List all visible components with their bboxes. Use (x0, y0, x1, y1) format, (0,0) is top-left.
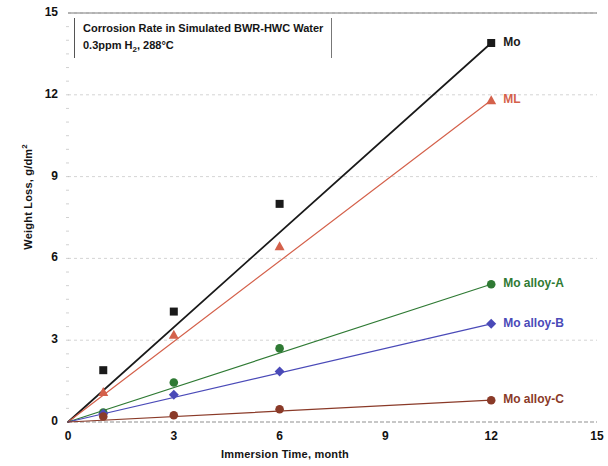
chart-container: Weight Loss, g/dm2 Immersion Time, month… (0, 0, 608, 466)
data-point-marker (275, 405, 284, 414)
data-point-marker (487, 396, 496, 405)
x-axis-title: Immersion Time, month (68, 448, 502, 460)
annotation-line-2-a: 0.3ppm H (83, 39, 133, 51)
series-label-mo-alloy-b: Mo alloy-B (503, 316, 564, 330)
series-mo (68, 39, 495, 422)
series-label-mo: Mo (503, 35, 520, 49)
data-point-marker (486, 319, 496, 329)
y-axis-tick-label: 0 (20, 414, 58, 428)
data-point-marker (170, 411, 179, 420)
data-point-marker (99, 366, 107, 374)
data-point-marker (170, 378, 179, 387)
y-axis-tick-label: 6 (20, 250, 58, 264)
chart-annotation: Corrosion Rate in Simulated BWR-HWC Wate… (74, 18, 332, 58)
y-axis-tick-label: 3 (20, 332, 58, 346)
data-point-marker (276, 200, 284, 208)
data-point-marker (275, 344, 284, 353)
series-label-mo-alloy-a: Mo alloy-A (503, 276, 564, 290)
x-axis-tick-label: 15 (577, 429, 608, 443)
x-axis-tick-label: 9 (365, 429, 405, 443)
data-point-marker (487, 280, 496, 289)
series-mo-alloy-c (68, 396, 496, 422)
data-point-marker (99, 412, 108, 421)
data-point-marker (486, 95, 496, 104)
y-axis-tick-label: 9 (20, 169, 58, 183)
y-axis-title-text: Weight Loss, g/dm (22, 149, 34, 250)
x-axis-tick-label: 12 (471, 429, 511, 443)
series-mo-alloy-a (68, 280, 496, 422)
x-axis-tick-label: 3 (154, 429, 194, 443)
data-point-marker (487, 39, 495, 47)
annotation-line-1: Corrosion Rate in Simulated BWR-HWC Wate… (83, 20, 323, 37)
x-axis-tick-label: 6 (260, 429, 300, 443)
y-axis-tick-label: 12 (20, 87, 58, 101)
series-label-mo-alloy-c: Mo alloy-C (503, 392, 564, 406)
y-axis-tick-label: 15 (20, 5, 58, 19)
data-point-marker (170, 308, 178, 316)
data-point-marker (275, 241, 285, 250)
series-trendline (68, 284, 491, 422)
annotation-line-2-b: , 288°C (137, 39, 174, 51)
series-trendline (68, 43, 491, 422)
x-axis-tick-label: 0 (48, 429, 88, 443)
annotation-line-2: 0.3ppm H2, 288°C (83, 37, 323, 56)
y-axis-title-exponent: 2 (20, 144, 29, 149)
series-label-ml: ML (503, 92, 520, 106)
data-point-marker (275, 367, 285, 377)
